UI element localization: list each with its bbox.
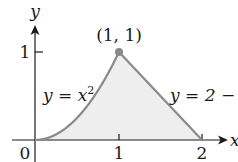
region-diagram: y x 1 0 1 2 (1, 1) y = x2 y = 2 − x xyxy=(0,0,238,162)
point-label: (1, 1) xyxy=(96,25,142,45)
x-tick-label-2: 2 xyxy=(197,143,208,162)
x-axis-label: x xyxy=(230,130,238,150)
intersection-point xyxy=(115,48,123,56)
parabola-label: y = x2 xyxy=(42,84,94,105)
x-tick-label-1: 1 xyxy=(114,143,125,162)
y-axis-label: y xyxy=(29,1,40,21)
origin-label: 0 xyxy=(20,143,31,162)
y-tick-label-1: 1 xyxy=(20,42,31,62)
line-label: y = 2 − x xyxy=(169,85,238,105)
